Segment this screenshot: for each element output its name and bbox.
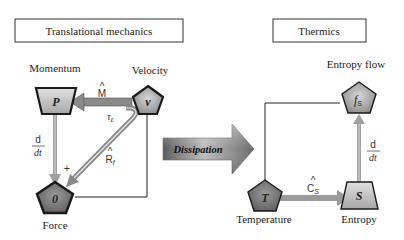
momentum-node: P — [36, 88, 76, 114]
force-label: Force — [42, 219, 67, 231]
tau-label: τL — [107, 111, 115, 124]
right-title: Thermics — [298, 25, 340, 37]
ddt-left-numerator: d — [35, 134, 41, 145]
ddt-left-denominator: dt — [34, 147, 42, 158]
left-title-box: Translational mechanics — [15, 19, 183, 42]
diagram-canvas: Translational mechanics Momentum Velocit… — [0, 0, 404, 240]
velocity-node: v — [133, 86, 163, 114]
temperature-label: Temperature — [236, 213, 292, 225]
dissipation-arrow: Dissipation — [163, 124, 254, 174]
r-hat-arrow — [72, 108, 136, 180]
velocity-label: Velocity — [132, 64, 169, 76]
entropy-label: Entropy — [341, 213, 377, 225]
momentum-label: Momentum — [29, 62, 81, 74]
temperature-symbol: T — [261, 191, 269, 205]
dissipation-label: Dissipation — [172, 144, 222, 155]
r-hat-label: Rf — [105, 154, 115, 166]
ddt-arrow-right — [353, 114, 365, 182]
right-title-box: Thermics — [273, 19, 366, 42]
m-hat-label: M — [98, 88, 106, 99]
velocity-symbol: v — [145, 95, 151, 109]
ddt-right-denominator: dt — [369, 152, 377, 163]
momentum-symbol: P — [52, 95, 60, 109]
temperature-node: T — [248, 180, 282, 211]
entropy-flow-node: fS — [342, 82, 376, 113]
left-title: Translational mechanics — [46, 25, 153, 37]
plus-sign: + — [64, 163, 70, 174]
c-hat-label: CS — [307, 183, 319, 195]
ddt-right-numerator: d — [370, 139, 376, 150]
temperature-entropyflow-connector — [265, 103, 340, 182]
ddt-arrow-left — [49, 113, 61, 186]
entropy-symbol: S — [356, 189, 363, 203]
force-node: 0 — [37, 182, 73, 213]
entropy-node: S — [341, 182, 378, 209]
entropy-flow-label: Entropy flow — [327, 58, 385, 70]
force-symbol: 0 — [52, 192, 58, 206]
